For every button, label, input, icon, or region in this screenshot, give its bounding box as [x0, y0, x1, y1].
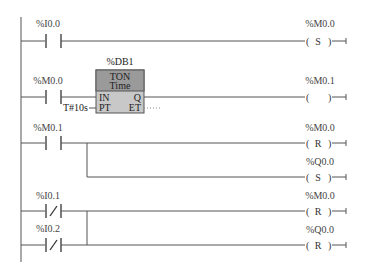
svg-text:S: S [315, 172, 321, 183]
rung-4: %I0.1 %I0.2 %M0.0 ( R ) %Q0.0 ( R [21, 190, 346, 252]
svg-text:R: R [315, 206, 322, 217]
no-contact-icon[interactable] [46, 136, 61, 150]
contact-address-i0-1: %I0.1 [36, 190, 60, 201]
svg-text:): ) [328, 36, 331, 48]
rung-2: %M0.0 %DB1 TON Time IN PT Q ET T#10s %M0… [21, 56, 346, 113]
ton-timer-block[interactable]: TON Time IN PT Q ET [96, 70, 144, 113]
svg-text:(: ( [306, 92, 310, 104]
timer-instance-label: %DB1 [106, 56, 133, 67]
svg-text:): ) [328, 92, 331, 104]
svg-text:): ) [328, 138, 331, 150]
reset-coil-icon[interactable]: ( R ) [306, 240, 331, 252]
coil-address-m0-0: %M0.0 [305, 18, 335, 29]
set-coil-icon[interactable]: ( S ) [306, 172, 331, 184]
svg-text:S: S [315, 36, 321, 47]
nc-contact-icon[interactable] [46, 204, 61, 218]
svg-text:): ) [328, 240, 331, 252]
contact-address-i0-2: %I0.2 [36, 223, 60, 234]
svg-text:(: ( [306, 206, 310, 218]
rung-1: %I0.0 %M0.0 ( S ) [21, 18, 346, 48]
timer-pin-et: ET [129, 102, 141, 113]
timer-pt-value[interactable]: T#10s [63, 102, 88, 113]
svg-text:): ) [328, 206, 331, 218]
coil-address-m0-0-reset: %M0.0 [305, 122, 335, 133]
reset-coil-icon[interactable]: ( R ) [306, 206, 331, 218]
ladder-diagram: %I0.0 %M0.0 ( S ) %M0.0 %DB1 TON Ti [0, 0, 365, 275]
nc-contact-icon[interactable] [46, 238, 61, 252]
timer-subtype: Time [110, 80, 131, 91]
output-coil-icon[interactable]: ( ) [306, 92, 331, 104]
no-contact-icon[interactable] [46, 34, 61, 48]
no-contact-icon[interactable] [46, 90, 61, 104]
svg-text:R: R [315, 138, 322, 149]
svg-text:(: ( [306, 240, 310, 252]
coil-address-q0-0-set: %Q0.0 [306, 156, 334, 167]
coil-address-q0-0-reset: %Q0.0 [306, 224, 334, 235]
contact-address-m0-1: %M0.1 [33, 122, 63, 133]
svg-text:): ) [328, 172, 331, 184]
contact-address-i0-0: %I0.0 [36, 18, 60, 29]
svg-text:(: ( [306, 138, 310, 150]
svg-text:R: R [315, 240, 322, 251]
coil-address-m0-0-reset: %M0.0 [305, 190, 335, 201]
svg-text:(: ( [306, 172, 310, 184]
reset-coil-icon[interactable]: ( R ) [306, 138, 331, 150]
set-coil-icon[interactable]: ( S ) [306, 36, 331, 48]
contact-address-m0-0: %M0.0 [33, 75, 63, 86]
coil-address-m0-1: %M0.1 [305, 75, 335, 86]
rung-3: %M0.1 %M0.0 ( R ) %Q0.0 ( S ) [21, 122, 346, 184]
timer-pin-pt: PT [99, 102, 111, 113]
svg-text:(: ( [306, 36, 310, 48]
